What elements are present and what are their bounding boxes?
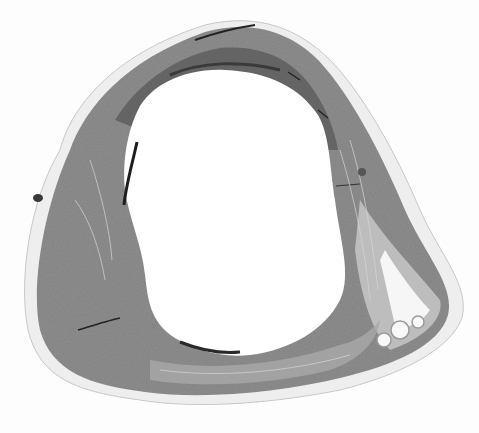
tissue-section (0, 0, 479, 433)
lumen (124, 70, 345, 356)
small-vessel (33, 194, 43, 202)
histology-image (0, 0, 479, 433)
